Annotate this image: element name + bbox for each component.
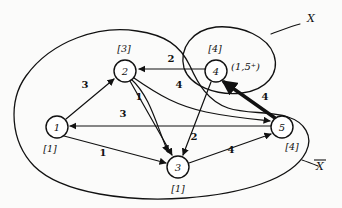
node-4-flow-annotation: (1,5⁺) <box>231 61 260 72</box>
node-3-label: [1] <box>171 183 185 194</box>
edge-1-to-2-path <box>66 79 114 119</box>
region-x-boundary <box>183 27 275 94</box>
node-4-id: 4 <box>212 66 219 77</box>
node-2-id: 2 <box>121 66 128 77</box>
edge-2-to-5-weight: 4 <box>176 79 183 90</box>
edge-4-to-3-path <box>183 82 211 155</box>
region-x-label: X <box>306 12 316 25</box>
node-2-group[interactable]: 2 [3] <box>114 43 136 82</box>
node-3-id: 3 <box>175 162 181 173</box>
node-2-label: [3] <box>117 43 131 54</box>
node-1-label: [1] <box>43 143 57 154</box>
network-flow-diagram: 1 [1] 2 [3] 3 [1] 4 [4] 5 [4] 2 3 1 3 1 <box>0 0 342 208</box>
edge-2-to-3-weight: 1 <box>136 91 143 102</box>
region-x-bar-label: X <box>315 160 325 173</box>
edge-4-to-3-weight: 2 <box>191 131 198 142</box>
node-5-group[interactable]: 5 [4] <box>271 116 299 152</box>
edge-1-to-2-weight: 3 <box>82 79 89 90</box>
node-5-id: 5 <box>279 122 285 133</box>
node-1-id: 1 <box>54 122 60 133</box>
edge-5-to-4-weight: 4 <box>262 91 269 102</box>
edge-1-to-3-weight: 1 <box>100 147 107 158</box>
edge-5-to-1-weight: 3 <box>120 108 127 119</box>
region-x-bar-label-group: X <box>314 160 326 173</box>
node-4-label: [4] <box>208 43 222 54</box>
node-1-group[interactable]: 1 [1] <box>43 116 68 154</box>
node-4-group[interactable]: 4 [4] <box>205 43 227 82</box>
node-3-group[interactable]: 3 [1] <box>167 156 189 194</box>
region-x-bar-boundary <box>14 30 309 199</box>
edge-3-to-5-weight: 4 <box>228 144 235 155</box>
diagram-canvas: 1 [1] 2 [3] 3 [1] 4 [4] 5 [4] 2 3 1 3 1 <box>0 0 342 208</box>
region-x-leader <box>271 24 300 34</box>
node-5-label: [4] <box>285 141 299 152</box>
edge-4-to-2-weight: 2 <box>168 53 175 64</box>
edge-1-to-3-path <box>64 136 166 163</box>
